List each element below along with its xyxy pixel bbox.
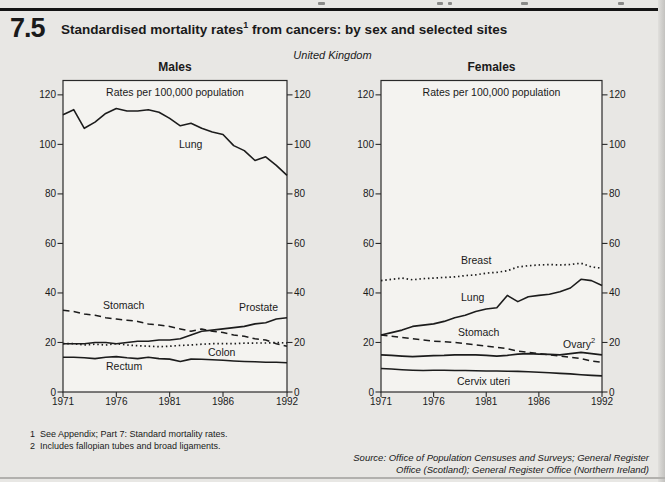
chart-block-females: Females 020406080100120 Rates per 100,00… [318, 60, 651, 425]
series-label-lung: Lung [179, 138, 202, 150]
footnote-1-text: See Appendix; Part 7: Standard mortality… [40, 429, 228, 439]
source-line-1: Source: Office of Population Censuses an… [353, 452, 649, 464]
source-line-2: Office (Scotland); General Register Offi… [353, 464, 649, 476]
series-label-colon: Colon [208, 346, 235, 358]
y-tick-label: 120 [294, 88, 311, 101]
y-axis-labels-right: 020406080100120 [609, 80, 639, 392]
chart-block-males: Males 020406080100120 Rates per 100,000 … [0, 60, 333, 425]
plot-area-females: Rates per 100,000 population Breast Lung… [381, 80, 602, 392]
y-tick-label: 80 [363, 187, 374, 200]
x-tick-label: 1986 [206, 396, 240, 407]
plot-area-males: Rates per 100,000 population Lung Stomac… [63, 80, 287, 392]
y-tick-label: 60 [45, 237, 56, 250]
y-tick-label: 60 [294, 237, 305, 250]
y-tick-label: 20 [609, 336, 620, 349]
males-line-chart [57, 80, 293, 399]
y-tick-label: 80 [45, 187, 56, 200]
footnotes: 1See Appendix; Part 7: Standard mortalit… [30, 428, 228, 452]
series-label-prostate: Prostate [239, 301, 278, 313]
y-tick-label: 60 [609, 237, 620, 250]
y-tick-label: 40 [609, 286, 620, 299]
x-tick-label: 1986 [522, 396, 556, 407]
footnote-2-text: Includes fallopian tubes and broad ligam… [40, 441, 221, 451]
series-label-stomach: Stomach [103, 299, 144, 311]
figure-title-rest: from cancers: by sex and selected sites [248, 22, 507, 37]
y-tick-label: 40 [294, 286, 305, 299]
y-tick-label: 120 [357, 88, 374, 101]
footnote-1: 1See Appendix; Part 7: Standard mortalit… [30, 428, 228, 440]
y-tick-label: 60 [363, 237, 374, 250]
page-crop-artifact [618, 2, 624, 5]
series-label-breast: Breast [461, 254, 491, 266]
x-tick-label: 1971 [364, 396, 398, 407]
source-note: Source: Office of Population Censuses an… [353, 452, 649, 475]
x-tick-label: 1981 [153, 396, 187, 407]
figure-title: Standardised mortality rates1 from cance… [61, 20, 507, 37]
x-axis-labels: 19711976198119861992 [63, 396, 287, 410]
figure-title-main: Standardised mortality rates [61, 22, 243, 37]
series-label-lung: Lung [461, 291, 484, 303]
y-tick-label: 40 [363, 286, 374, 299]
chart-title-males: Males [63, 60, 287, 74]
y-tick-label: 20 [363, 336, 374, 349]
y-tick-label: 20 [294, 336, 305, 349]
y-axis-labels-left: 020406080100120 [338, 80, 374, 392]
ovary-footnote-marker: 2 [591, 336, 595, 345]
figure-number: 7.5 [10, 13, 45, 44]
y-tick-label: 100 [357, 138, 374, 151]
footnote-2-marker: 2 [30, 440, 40, 452]
series-label-rectum: Rectum [106, 360, 142, 372]
page-crop-artifact [437, 2, 443, 5]
x-tick-label: 1976 [99, 396, 133, 407]
y-tick-label: 120 [39, 88, 56, 101]
y-tick-label: 100 [39, 138, 56, 151]
y-tick-label: 40 [45, 286, 56, 299]
rates-note: Rates per 100,000 population [381, 86, 602, 98]
females-line-chart [375, 80, 608, 399]
top-rule [0, 8, 665, 11]
y-tick-label: 80 [294, 187, 305, 200]
series-label-ovary: Ovary2 [563, 336, 595, 350]
footnote-1-marker: 1 [30, 428, 40, 440]
ovary-label-text: Ovary [563, 338, 591, 350]
page-crop-artifact [448, 2, 452, 5]
x-axis-labels: 19711976198119861992 [381, 396, 602, 410]
figure-7-5: 7.5 Standardised mortality rates1 from c… [0, 0, 665, 482]
y-axis-labels-left: 020406080100120 [20, 80, 56, 392]
x-tick-label: 1992 [270, 396, 304, 407]
x-tick-label: 1976 [417, 396, 451, 407]
page-crop-artifact [318, 2, 325, 5]
footnote-2: 2Includes fallopian tubes and broad liga… [30, 440, 228, 452]
page-crop-artifact [521, 2, 528, 5]
series-label-cervix-uteri: Cervix uteri [457, 375, 510, 387]
x-tick-label: 1981 [469, 396, 503, 407]
y-tick-label: 100 [294, 138, 311, 151]
series-label-stomach: Stomach [458, 326, 499, 338]
x-tick-label: 1971 [46, 396, 80, 407]
y-tick-label: 80 [609, 187, 620, 200]
page-edge [658, 0, 665, 482]
x-tick-label: 1992 [585, 396, 619, 407]
bottom-rule [0, 477, 665, 479]
y-tick-label: 20 [45, 336, 56, 349]
y-tick-label: 100 [609, 138, 626, 151]
chart-title-females: Females [381, 60, 602, 74]
rates-note: Rates per 100,000 population [63, 86, 287, 98]
y-tick-label: 120 [609, 88, 626, 101]
